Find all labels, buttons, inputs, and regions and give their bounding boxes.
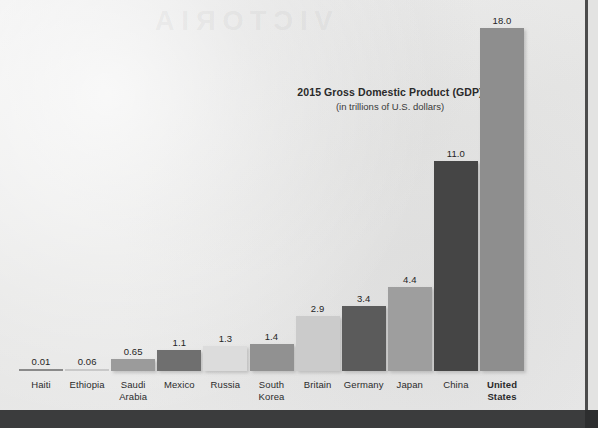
bar-group: 1.4SouthKorea [249,0,295,410]
bar-value-label: 3.4 [341,293,387,304]
bar-rect[interactable] [111,359,155,371]
bar-category-label-line2: Korea [245,391,299,403]
bar-value-label: 1.1 [156,337,202,348]
bar-category-label-line2: States [475,391,529,403]
bar-rect[interactable] [157,350,201,371]
bar-rect[interactable] [19,369,63,371]
bar-rect[interactable] [434,161,478,371]
bar-value-label: 1.4 [249,331,295,342]
bar-rect[interactable] [342,306,386,371]
bar-value-label: 0.06 [64,356,110,367]
bar-category-label-line2: Arabia [106,391,160,403]
bar-group: 0.01Haiti [18,0,64,410]
bar-value-label: 1.3 [202,333,248,344]
bar-group: 0.06Ethiopia [64,0,110,410]
bar-value-label: 0.01 [18,356,64,367]
page-right-edge [588,0,598,428]
bar-rect[interactable] [388,287,432,371]
bar-category-label-line1: United [475,379,529,391]
bar-rect[interactable] [65,369,109,371]
bar-rect[interactable] [250,344,294,371]
bar-rect[interactable] [203,346,247,371]
bar-value-label: 0.65 [110,346,156,357]
bar-group: 18.0UnitedStates [479,0,525,410]
bar-value-label: 11.0 [433,148,479,159]
bar-category-label: UnitedStates [475,379,529,402]
bar-value-label: 2.9 [295,303,341,314]
bar-group: 2.9Britain [295,0,341,410]
bar-rect[interactable] [296,316,340,371]
bar-value-label: 4.4 [387,274,433,285]
bar-group: 4.4Japan [387,0,433,410]
plot-area: 0.01Haiti0.06Ethiopia0.65SaudiArabia1.1M… [0,0,585,410]
page-bottom-band-corner [585,410,598,428]
bar-rect[interactable] [480,28,524,371]
bar-chart: 2015 Gross Domestic Product (GDP) (in tr… [0,0,585,410]
page-bottom-band [0,410,598,428]
bar-group: 1.3Russia [202,0,248,410]
bar-group: 3.4Germany [341,0,387,410]
bar-value-label: 18.0 [479,15,525,26]
bar-group: 0.65SaudiArabia [110,0,156,410]
bar-group: 11.0China [433,0,479,410]
bar-group: 1.1Mexico [156,0,202,410]
scanned-page: VICTORIA 2015 Gross Domestic Product (GD… [0,0,598,428]
